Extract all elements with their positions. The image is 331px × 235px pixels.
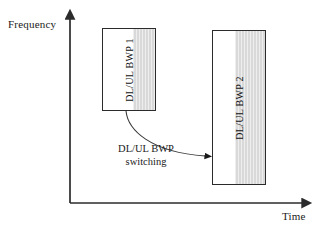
bwp-switching-annotation-line-1: DL/UL BWP: [96, 142, 196, 155]
time-axis-label: Time: [282, 210, 306, 222]
bwp-switching-diagram: Frequency Time DL/UL BWP 1 DL/UL BWP 2 D…: [0, 0, 331, 235]
bwp-block-2: DL/UL BWP 2: [212, 30, 266, 185]
frequency-axis-label: Frequency: [8, 18, 56, 30]
bwp-switching-annotation: DL/UL BWP switching: [96, 142, 196, 168]
bwp-block-1-shading: [133, 29, 155, 110]
bwp-block-1: DL/UL BWP 1: [102, 28, 156, 111]
bwp-switching-annotation-line-2: switching: [96, 155, 196, 168]
bwp-block-2-label: DL/UL BWP 2: [234, 76, 245, 140]
bwp-block-1-label: DL/UL BWP 1: [124, 38, 135, 102]
diagram-canvas: [0, 0, 331, 235]
